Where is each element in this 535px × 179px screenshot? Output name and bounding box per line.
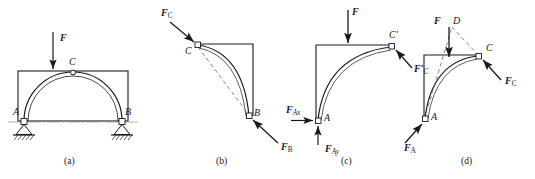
panel-b-force-FB-symbol: F	[281, 141, 288, 152]
panel-c-pin-A	[316, 118, 322, 124]
panel-a-support-triangle-A	[16, 125, 32, 135]
panel-d-point-D-label: D	[453, 16, 460, 26]
panel-c-force-FpC-label: F′C	[414, 64, 428, 74]
panel-d-force-FA-label: FA	[404, 143, 416, 153]
panel-a-arch-outer	[24, 72, 122, 121]
panel-d-force-FA-subscript: A	[411, 147, 416, 155]
panel-c-force-FAy-label: FAy	[325, 144, 339, 154]
panel-a-support-triangle-B	[114, 125, 130, 135]
panel-b-force-FC-label: FC	[161, 8, 172, 18]
panel-c-point-Cp-label: C′	[389, 30, 398, 40]
panel-c-pin-Cp	[389, 44, 395, 50]
panel-d-force-FA-symbol: F	[404, 142, 411, 153]
panel-a-point-C-label: C	[69, 57, 76, 67]
panel-a-frame	[18, 71, 128, 121]
panel-b-pin-B	[247, 113, 253, 119]
panel-a-pin-A	[21, 119, 27, 125]
panel-b-pin-C	[195, 42, 201, 48]
panel-d-arch-outer	[425, 56, 477, 118]
panel-b-force-FC-subscript: C	[168, 12, 173, 20]
panel-b-graphics	[170, 22, 278, 143]
panel-b-caption: (b)	[216, 157, 227, 167]
figure-vector-canvas	[0, 0, 535, 179]
panel-c-arch-outer	[318, 47, 391, 120]
panel-c-frame	[316, 45, 392, 120]
panel-a-caption: (a)	[64, 157, 75, 167]
panel-d-dashed-D-C	[452, 27, 479, 56]
panel-d-pin-A	[423, 116, 429, 122]
panel-d-point-C-label: C	[486, 43, 493, 53]
panel-d-arch-inner	[428, 59, 477, 118]
panel-b-force-FB-subscript: B	[288, 146, 293, 154]
panel-d-caption: (d)	[461, 157, 472, 167]
panel-c-force-FAy-subscript: Ay	[332, 148, 339, 156]
panel-c-caption: (c)	[341, 157, 352, 167]
panel-b-force-FB-label: FB	[281, 142, 292, 152]
panel-b-point-B-label: B	[254, 108, 260, 118]
panel-a-ground-hatch-A	[14, 135, 34, 140]
panel-a-point-A-label: A	[13, 107, 19, 117]
panel-a-ground-hatch-B	[112, 135, 132, 140]
panel-d-force-FC-subscript: C	[512, 80, 517, 88]
mechanics-figure: F C A B (a) FC C B FB (b) F C′ F′C FAx A…	[0, 0, 535, 179]
panel-d-force-FC-arrow	[483, 60, 501, 80]
panel-c-arch-inner	[321, 50, 391, 120]
panel-b-force-FC-arrow	[170, 22, 194, 42]
panel-b-force-FB-arrow	[253, 120, 278, 143]
panel-d-frame	[424, 55, 478, 118]
panel-b-point-C-label: C	[185, 46, 192, 56]
panel-c-force-F-label: F	[352, 7, 359, 17]
panel-d-force-FC-label: FC	[505, 76, 516, 86]
panel-c-force-FpC-subscript: C	[423, 68, 428, 76]
panel-c-force-FAx-subscript: Ax	[293, 109, 301, 117]
panel-c-force-FAx-symbol: F	[286, 104, 293, 115]
panel-b-arch-inner	[199, 48, 246, 116]
panel-d-force-FA-arrow	[405, 124, 422, 143]
panel-a-graphics	[8, 32, 138, 140]
panel-a-force-F-label: F	[60, 33, 67, 43]
panel-d-force-FC-symbol: F	[505, 75, 512, 86]
panel-d-force-F-label: F	[434, 16, 441, 26]
panel-d-point-A-label: A	[431, 112, 437, 122]
panel-a-pin-B	[119, 119, 125, 125]
panel-c-force-FpC-arrow	[396, 50, 412, 68]
panel-d-pin-C	[476, 54, 482, 60]
panel-a-point-B-label: B	[125, 107, 131, 117]
panel-c-point-A-label: A	[324, 113, 330, 123]
panel-c-force-FAy-symbol: F	[325, 143, 332, 154]
panel-c-force-FAx-label: FAx	[286, 105, 300, 115]
panel-b-force-FC-symbol: F	[161, 7, 168, 18]
panel-a-hinge-C	[71, 70, 76, 75]
